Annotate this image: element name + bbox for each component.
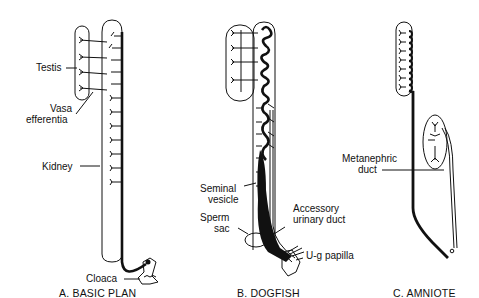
- kidney-outline: [102, 20, 122, 262]
- caption-basic-plan: A. BASIC PLAN: [59, 287, 136, 298]
- label-sperm-sac-line2: sac: [214, 223, 230, 234]
- label-vasa-efferentia-line1: Vasa: [50, 103, 72, 114]
- label-cloaca: Cloaca: [86, 273, 117, 284]
- label-seminal-vesicle-line1: Seminal: [200, 183, 236, 194]
- label-seminal-vesicle-line2: vesicle: [208, 194, 239, 205]
- testis-outline: [226, 25, 254, 101]
- label-metanephric-duct-line2: duct: [358, 164, 377, 175]
- label-sperm-sac-line1: Sperm: [200, 212, 229, 223]
- amniote-drawing: [320, 0, 479, 298]
- panel-basic-plan: Testis Vasa efferentia Kidney Cloaca A. …: [0, 0, 160, 298]
- label-testis: Testis: [36, 62, 62, 73]
- label-kidney: Kidney: [42, 161, 73, 172]
- label-vasa-efferentia-line2: efferentia: [26, 114, 68, 125]
- panel-dogfish: Seminal vesicle Sperm sac Accessory urin…: [160, 0, 340, 298]
- caption-amniote: C. AMNIOTE: [393, 287, 456, 298]
- metanephros-outline: [423, 115, 447, 169]
- label-metanephric-duct-line1: Metanephric: [342, 153, 397, 164]
- panel-amniote: Metanephric duct C. AMNIOTE: [320, 0, 479, 298]
- caption-dogfish: B. DOGFISH: [237, 287, 300, 298]
- basic-plan-drawing: [0, 0, 160, 298]
